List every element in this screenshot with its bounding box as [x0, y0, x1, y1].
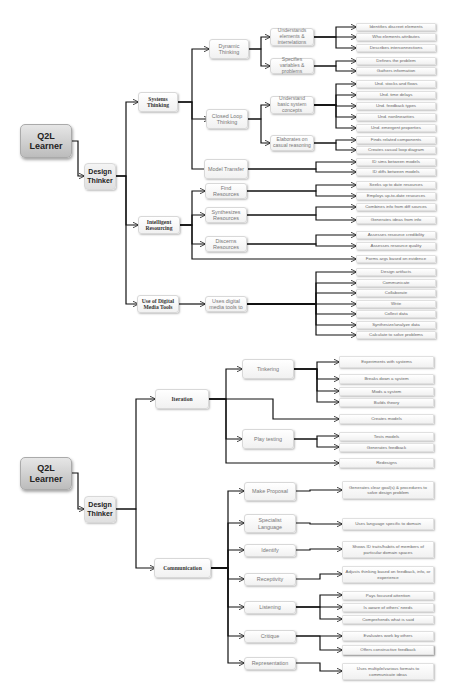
leaf: Identifies discreet elements	[356, 23, 436, 31]
leaf: Experiments with systems	[339, 356, 434, 368]
leaf: Synthesize/analyze data	[356, 321, 436, 329]
leaf: Und. time delays	[356, 91, 436, 99]
leaf: Offers constructive feedback	[342, 645, 434, 655]
leaf: Design artifacts	[356, 268, 436, 276]
root-node-q2l-learner: Q2L Learner	[20, 124, 72, 158]
leaf: Who elements attributes	[356, 33, 436, 41]
leaf: Tests models	[339, 432, 434, 441]
node-tinkering: Tinkering	[242, 359, 294, 379]
node-listening: Listening	[244, 601, 296, 614]
leaf: Describes interconnections	[356, 44, 436, 52]
leaf: Redesigns	[339, 458, 434, 468]
node-understand-basic-concepts: Understand basic system concepts	[270, 96, 314, 114]
leaf: ID sims between models	[356, 158, 436, 166]
leaf: Defines the problem	[356, 57, 436, 65]
leaf: Assesses resource quality	[356, 242, 436, 250]
leaf: Uses multiple/various formats to communi…	[342, 663, 434, 680]
node-dynamic-thinking: Dynamic Thinking	[209, 39, 249, 59]
leaf: Communicate	[356, 279, 436, 287]
node-play-testing: Play testing	[242, 429, 294, 449]
node-systems-thinking: Systems Thinking	[138, 92, 178, 112]
node-specialist-language: Specialist Language	[244, 514, 296, 533]
leaf: Combines info from diff sources	[356, 203, 436, 211]
leaf: Adjusts thinking based on feedback, info…	[342, 566, 434, 583]
node-make-proposal: Make Proposal	[244, 482, 296, 501]
leaf: Builds theory	[339, 398, 434, 407]
leaf: Generates feedback	[339, 443, 434, 452]
leaf: Und. emergent properties	[356, 124, 436, 132]
leaf: ID diffs between models	[356, 168, 436, 176]
node-representation: Representation	[244, 657, 296, 670]
leaf: Mods a system	[339, 387, 434, 396]
leaf: Collaborate	[356, 289, 436, 297]
node-understands-elements: Understands elements & interrelations	[270, 28, 314, 46]
node-design-thinker-2: Design Thinker	[84, 496, 116, 523]
leaf: Generates clear goal(s) & procedures to …	[342, 481, 434, 499]
leaf: Collect data	[356, 310, 436, 318]
node-critique: Critique	[244, 630, 296, 643]
leaf: Forms args based on evidence	[356, 255, 436, 263]
node-use-of-digital-media-tools: Use of Digital Media Tools	[137, 295, 179, 313]
leaf: Employs up-to-date resources	[356, 192, 436, 200]
node-intelligent-resourcing: Intelligent Resourcing	[138, 216, 180, 234]
node-model-transfer: Model Transfer	[204, 159, 248, 179]
leaf: Und. feedback types	[356, 102, 436, 110]
root-node-q2l-learner-2: Q2L Learner	[20, 457, 72, 490]
leaf: Evaluates work by others	[342, 631, 434, 641]
node-elaborates-casual-reasoning: Elaborates on casual reasoning	[270, 135, 314, 151]
leaf: Pays focused attention	[342, 591, 434, 600]
leaf: Generates ideas from info	[356, 216, 436, 224]
leaf: Creates casual loop diagram	[356, 146, 436, 154]
node-specifies-variables: Specifies variables & problems	[270, 58, 314, 74]
leaf: Uses language specific to domain	[342, 518, 434, 530]
leaf: Creates models	[339, 414, 434, 424]
node-receptivity: Receptivity	[244, 573, 296, 586]
leaf: Gathers information	[356, 67, 436, 75]
leaf: Breaks down a system	[339, 374, 434, 384]
node-uses-digital-media-tools-to: Uses digital media tools to	[205, 296, 247, 312]
leaf: Comprehends what is said	[342, 615, 434, 624]
leaf: Und. stocks and flows	[356, 80, 436, 88]
leaf: Finds related components	[356, 136, 436, 144]
diagram-canvas: Q2L Learner Design Thinker Systems Think…	[0, 0, 454, 699]
node-closed-loop-thinking: Closed Loop Thinking	[206, 109, 248, 129]
node-communication: Communication	[154, 558, 211, 578]
node-identify: Identify	[244, 544, 296, 557]
node-synthesizes-resources: Synthesizes Resources	[205, 207, 247, 223]
leaf: Assesses resource credibility	[356, 231, 436, 239]
leaf: Shows ID traits/habits of members of par…	[342, 541, 434, 558]
node-find-resources: Find Resources	[205, 183, 247, 199]
node-iteration: Iteration	[155, 389, 209, 409]
leaf: Calculate to solve problems	[356, 331, 436, 339]
node-discerns-resources: Discerns Resources	[205, 236, 247, 252]
leaf: Is aware of others' needs	[342, 603, 434, 612]
node-design-thinker: Design Thinker	[84, 163, 116, 190]
leaf: Seeks up to date resources	[356, 181, 436, 189]
leaf: Write	[356, 300, 436, 308]
leaf: Und. nonlinearities	[356, 113, 436, 121]
